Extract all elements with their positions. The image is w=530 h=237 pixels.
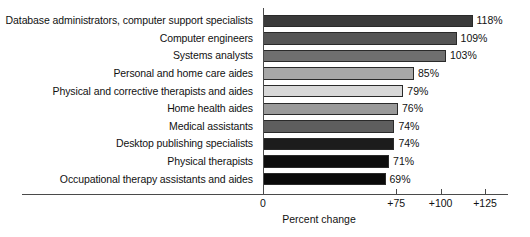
- category-label: Personal and home care aides: [0, 68, 258, 79]
- table-row: Occupational therapy assistants and aide…: [0, 170, 530, 188]
- x-axis-title-text: Percent change: [282, 213, 356, 225]
- bar-value-label: 118%: [477, 15, 503, 26]
- category-label: Database administrators, computer suppor…: [0, 15, 258, 26]
- table-row: Medical assistants 74%: [0, 118, 530, 136]
- bar-lane: 85%: [263, 65, 439, 83]
- category-label: Computer engineers: [0, 33, 258, 44]
- bar-lane: 74%: [263, 118, 419, 136]
- category-label: Desktop publishing specialists: [0, 138, 258, 149]
- bar-value-label: 74%: [398, 138, 419, 149]
- x-axis-tick: [441, 189, 442, 195]
- bar-value-label: 103%: [450, 50, 477, 61]
- bar-lane: 76%: [263, 100, 423, 118]
- bar-lane: 69%: [263, 170, 411, 188]
- x-axis-tick: [263, 189, 264, 195]
- x-axis-tick: [396, 189, 397, 195]
- bar-value-label: 71%: [393, 156, 414, 167]
- category-label: Medical assistants: [0, 121, 258, 132]
- table-row: Physical and corrective therapists and a…: [0, 82, 530, 100]
- bar-lane: 103%: [263, 47, 477, 65]
- table-row: Personal and home care aides 85%: [0, 65, 530, 83]
- category-label: Occupational therapy assistants and aide…: [0, 174, 258, 185]
- table-row: Database administrators, computer suppor…: [0, 12, 530, 30]
- bar-value-label: 69%: [390, 174, 411, 185]
- bar: [263, 50, 446, 63]
- bar-rows: Database administrators, computer suppor…: [0, 12, 530, 188]
- bar: [263, 120, 394, 133]
- bar: [263, 15, 473, 28]
- bar-lane: 74%: [263, 135, 419, 153]
- x-axis-tick-label: +125: [473, 197, 497, 209]
- table-row: Desktop publishing specialists 74%: [0, 135, 530, 153]
- bar-lane: 79%: [263, 82, 428, 100]
- bar: [263, 138, 394, 151]
- table-row: Home health aides 76%: [0, 100, 530, 118]
- bar-lane: 71%: [263, 153, 414, 171]
- bar-value-label: 76%: [402, 103, 423, 114]
- category-label: Home health aides: [0, 103, 258, 114]
- x-axis-title: Percent change: [0, 213, 530, 225]
- category-label: Systems analysts: [0, 50, 258, 61]
- bar: [263, 103, 398, 116]
- bar: [263, 85, 403, 98]
- bar: [263, 155, 389, 168]
- x-axis-tick-label: +100: [429, 197, 453, 209]
- table-row: Computer engineers 109%: [0, 30, 530, 48]
- x-axis-tick-label: 0: [260, 197, 266, 209]
- bar: [263, 67, 414, 80]
- bar: [263, 173, 386, 186]
- x-axis-baseline: [22, 194, 508, 195]
- category-label: Physical therapists: [0, 156, 258, 167]
- table-row: Physical therapists 71%: [0, 153, 530, 171]
- bar-value-label: 109%: [461, 33, 488, 44]
- bar-value-label: 79%: [407, 86, 428, 97]
- bar-value-label: 85%: [418, 68, 439, 79]
- percent-change-bar-chart: Database administrators, computer suppor…: [0, 0, 530, 237]
- table-row: Systems analysts 103%: [0, 47, 530, 65]
- x-axis-tick: [485, 189, 486, 195]
- bar-lane: 118%: [263, 12, 503, 30]
- bar: [263, 32, 457, 45]
- x-axis-tick-label: +75: [387, 197, 405, 209]
- category-label: Physical and corrective therapists and a…: [0, 86, 258, 97]
- bar-value-label: 74%: [398, 121, 419, 132]
- y-axis-zero-line: [263, 8, 264, 195]
- plot-area: Database administrators, computer suppor…: [0, 0, 530, 237]
- bar-lane: 109%: [263, 30, 487, 48]
